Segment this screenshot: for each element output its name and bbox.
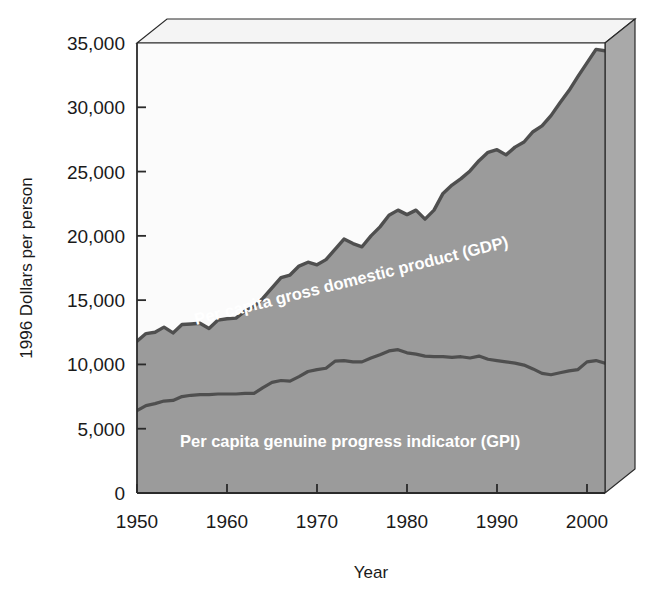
x-tick-label: 1980: [386, 511, 428, 532]
y-tick-label: 0: [114, 483, 125, 504]
area-chart: 05,00010,00015,00020,00025,00030,00035,0…: [0, 0, 647, 592]
y-tick-label: 10,000: [67, 354, 125, 375]
x-axis-title: Year: [354, 563, 389, 582]
gpi-series-label: Per capita genuine progress indicator (G…: [180, 432, 520, 450]
x-tick-label: 1960: [206, 511, 248, 532]
y-tick-label: 25,000: [67, 162, 125, 183]
y-tick-label: 20,000: [67, 226, 125, 247]
y-tick-label: 5,000: [77, 419, 125, 440]
y-tick-label: 30,000: [67, 97, 125, 118]
y-tick-label: 35,000: [67, 33, 125, 54]
x-tick-label: 1990: [476, 511, 518, 532]
x-tick-label: 1970: [296, 511, 338, 532]
block-top-face: [137, 19, 635, 43]
chart-figure: 05,00010,00015,00020,00025,00030,00035,0…: [0, 0, 647, 592]
y-axis-ticks: 05,00010,00015,00020,00025,00030,00035,0…: [67, 33, 146, 504]
y-tick-label: 15,000: [67, 290, 125, 311]
y-axis-title: 1996 Dollars per person: [17, 177, 36, 358]
x-tick-label: 1950: [116, 511, 158, 532]
x-tick-label: 2000: [566, 511, 608, 532]
block-side-face: [605, 19, 635, 493]
